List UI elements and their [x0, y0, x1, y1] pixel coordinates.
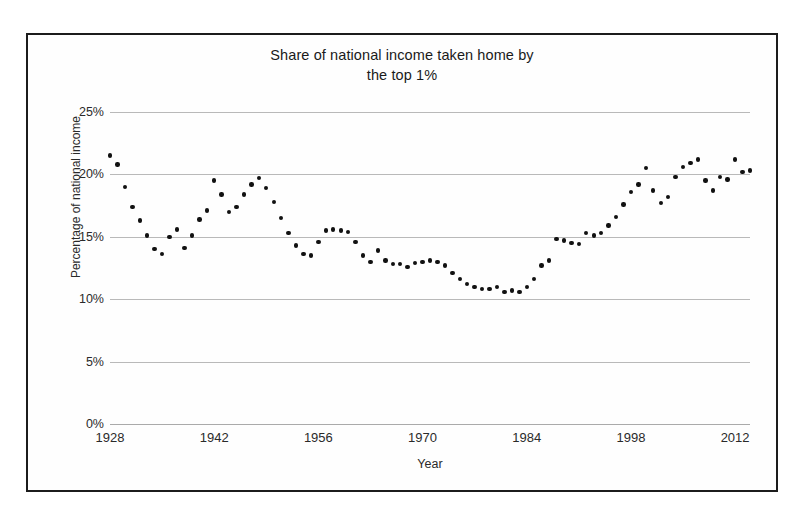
data-point — [391, 262, 395, 266]
data-point — [636, 182, 640, 186]
data-point — [309, 253, 313, 257]
data-point — [234, 205, 238, 209]
data-point — [517, 290, 521, 294]
data-point — [286, 231, 290, 235]
data-point — [301, 252, 305, 256]
y-tick-label: 15% — [60, 230, 104, 244]
data-point — [748, 168, 752, 172]
gridline — [110, 424, 750, 425]
data-point — [599, 231, 603, 235]
data-point — [272, 200, 276, 204]
data-point — [651, 188, 655, 192]
chart-title: Share of national income taken home by t… — [28, 45, 776, 85]
data-point — [681, 165, 685, 169]
data-point — [606, 223, 610, 227]
x-axis-tick-labels: 1928194219561970198419982012 — [110, 430, 750, 452]
data-point — [108, 153, 112, 157]
data-point — [346, 230, 350, 234]
data-point — [205, 208, 209, 212]
data-point — [465, 282, 469, 286]
y-tick-label: 25% — [60, 105, 104, 119]
data-point — [138, 218, 142, 222]
data-point — [659, 201, 663, 205]
y-tick-label: 20% — [60, 167, 104, 181]
data-point — [420, 260, 424, 264]
data-point — [123, 185, 127, 189]
data-point — [554, 237, 558, 241]
data-point — [644, 166, 648, 170]
data-point — [666, 195, 670, 199]
chart-title-line-2: the top 1% — [28, 65, 776, 85]
y-tick-label: 10% — [60, 292, 104, 306]
x-tick-label: 1956 — [288, 430, 348, 445]
data-point — [405, 265, 409, 269]
data-point — [361, 253, 365, 257]
x-tick-label: 1970 — [393, 430, 453, 445]
data-point — [227, 210, 231, 214]
data-point — [569, 241, 573, 245]
data-point — [376, 248, 380, 252]
data-point — [733, 157, 737, 161]
data-point — [219, 192, 223, 196]
x-tick-label: 1984 — [497, 430, 557, 445]
data-point — [532, 277, 536, 281]
gridline — [110, 112, 750, 113]
plot-area — [110, 112, 750, 424]
data-point — [339, 228, 343, 232]
y-axis-tick-labels: 0%5%10%15%20%25% — [54, 112, 104, 424]
data-point — [562, 238, 566, 242]
data-point — [480, 287, 484, 291]
data-point — [525, 285, 529, 289]
data-point — [294, 243, 298, 247]
data-point — [614, 215, 618, 219]
data-point — [190, 233, 194, 237]
data-point — [383, 258, 387, 262]
data-point — [175, 227, 179, 231]
data-point — [257, 176, 261, 180]
data-point — [592, 233, 596, 237]
x-axis-title: Year — [110, 457, 750, 471]
data-point — [510, 288, 514, 292]
data-point — [152, 247, 156, 251]
data-point — [577, 242, 581, 246]
data-point — [472, 285, 476, 289]
data-point — [160, 252, 164, 256]
data-point — [398, 262, 402, 266]
x-tick-label: 1942 — [184, 430, 244, 445]
data-point — [718, 175, 722, 179]
gridline — [110, 299, 750, 300]
data-point — [711, 188, 715, 192]
data-point — [413, 261, 417, 265]
data-point — [539, 263, 543, 267]
data-point — [673, 175, 677, 179]
x-tick-label: 1928 — [80, 430, 140, 445]
data-point — [353, 240, 357, 244]
gridline — [110, 237, 750, 238]
gridline — [110, 362, 750, 363]
data-point — [696, 157, 700, 161]
data-point — [279, 216, 283, 220]
data-point — [458, 277, 462, 281]
data-point — [502, 290, 506, 294]
data-point — [324, 228, 328, 232]
data-point — [435, 260, 439, 264]
y-tick-label: 5% — [60, 355, 104, 369]
data-point — [629, 190, 633, 194]
gridline — [110, 174, 750, 175]
data-point — [450, 271, 454, 275]
data-point — [331, 227, 335, 231]
data-point — [182, 246, 186, 250]
data-point — [584, 231, 588, 235]
data-point — [621, 202, 625, 206]
data-point — [167, 235, 171, 239]
data-point — [249, 182, 253, 186]
y-tick-label: 0% — [60, 417, 104, 431]
x-tick-label: 1998 — [601, 430, 661, 445]
data-point — [725, 177, 729, 181]
chart-title-line-1: Share of national income taken home by — [28, 45, 776, 65]
data-point — [495, 285, 499, 289]
data-point — [115, 162, 119, 166]
data-point — [740, 170, 744, 174]
data-point — [368, 260, 372, 264]
data-point — [264, 186, 268, 190]
